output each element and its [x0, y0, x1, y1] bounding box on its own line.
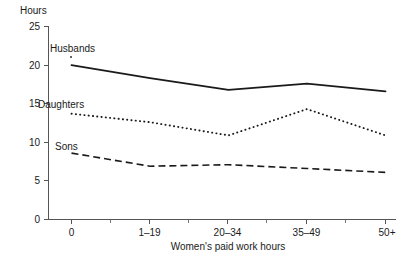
y-tick-label-20: 20: [29, 60, 41, 71]
x-tick-label-35-49: 35–49: [293, 227, 321, 238]
x-tick-label-0: 0: [69, 227, 75, 238]
y-axis-tick-labels: 25 20 15 10 5 0: [29, 21, 41, 225]
y-tick-label-10: 10: [29, 137, 41, 148]
x-tick-label-20-34: 20–34: [214, 227, 242, 238]
line-chart: Hours 25 20 15 10 5 0: [0, 0, 410, 257]
y-tick-label-5: 5: [34, 175, 40, 186]
y-axis-ticks: [44, 27, 49, 220]
x-axis-tick-labels: 0 1–19 20–34 35–49 50+: [69, 227, 396, 238]
series-label-husbands: Husbands: [50, 43, 95, 54]
y-axis-title: Hours: [20, 5, 47, 16]
x-tick-label-1-19: 1–19: [138, 227, 161, 238]
x-axis-title: Women's paid work hours: [171, 241, 286, 252]
x-axis-ticks: [72, 220, 386, 225]
y-tick-label-0: 0: [34, 214, 40, 225]
y-tick-label-25: 25: [29, 21, 41, 32]
series-label-sons: Sons: [55, 141, 78, 152]
series-label-daughters: Daughters: [38, 99, 84, 110]
series-line-daughters: [72, 109, 386, 135]
x-tick-label-50plus: 50+: [379, 227, 396, 238]
chart-container: Hours 25 20 15 10 5 0: [0, 0, 410, 257]
series-line-sons: [72, 153, 386, 172]
series-line-husbands: [72, 65, 386, 91]
